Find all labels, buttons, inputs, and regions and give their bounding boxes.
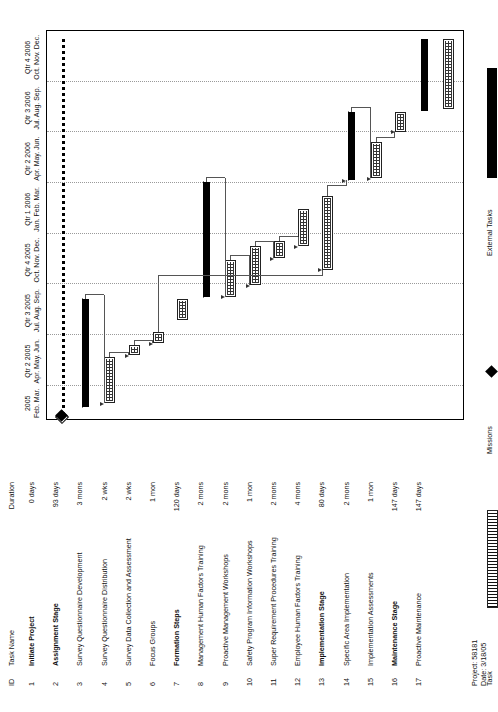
task-bar[interactable] (153, 332, 164, 344)
row-task-name: Initiate Project (28, 536, 37, 666)
legend-symbol-milestone-diamond (485, 365, 498, 378)
row-duration: 80 days (318, 482, 327, 534)
task-bar[interactable] (250, 246, 261, 285)
task-bar[interactable] (298, 209, 309, 246)
dependency-link (206, 178, 207, 182)
row-task-name: Formation Steps (173, 536, 182, 666)
row-id: 1 (28, 670, 37, 686)
legend-label: External Tasks (486, 186, 495, 256)
task-bar[interactable] (104, 357, 115, 404)
row-id: 11 (270, 670, 279, 686)
table-row[interactable]: 9Proactive Management Workshops2 mons (222, 436, 245, 686)
row-task-name: Survey Questionnaire Development (76, 536, 85, 666)
row-id: 13 (318, 670, 327, 686)
table-row[interactable]: 3Survey Questionnaire Development3 mons (76, 436, 99, 686)
dependency-arrow-icon (221, 295, 225, 299)
timeline-month-label: Jul. Aug. Sep. (33, 83, 40, 134)
table-row[interactable]: 6Focus Groups1 mon (149, 436, 172, 686)
row-duration: 3 mons (76, 482, 85, 534)
table-row[interactable]: 13Implementation Stage80 days (318, 436, 341, 686)
summary-bar[interactable] (82, 299, 89, 408)
dependency-arrow-icon (342, 179, 346, 183)
dependency-link (370, 109, 371, 179)
legend-label: Missions (486, 384, 495, 454)
footer-project: Project: 58181 (470, 640, 479, 686)
dependency-link (376, 138, 377, 142)
row-task-name: Super Requirement Procedures Training (270, 536, 279, 666)
row-id: 12 (294, 670, 303, 686)
column-header-name: Task Name (8, 536, 17, 666)
row-id: 6 (149, 670, 158, 686)
row-duration: 93 days (52, 482, 61, 534)
table-row[interactable]: 17Proactive Maintenance147 days (415, 436, 438, 686)
task-bar[interactable] (322, 196, 333, 270)
dependency-link (85, 295, 86, 299)
task-bar[interactable] (371, 142, 382, 179)
row-task-name: Implementation Assessments (367, 536, 376, 666)
task-bar[interactable] (225, 260, 236, 297)
row-task-name: Management Human Factors Training (197, 536, 206, 666)
row-duration: 4 mons (294, 482, 303, 534)
dependency-arrow-icon (367, 177, 371, 181)
table-row[interactable]: 4Survey Questionnaire Distribution2 wks (101, 436, 124, 686)
dependency-link (376, 137, 395, 138)
timeline-month-label: Feb. Mar. (33, 387, 40, 420)
table-row[interactable]: 16Maintenance Stage147 days (391, 436, 414, 686)
column-header-id: ID (8, 670, 17, 686)
summary-bar[interactable] (348, 113, 355, 181)
timeline-month-label: Jan. Feb. Mar. (33, 184, 40, 235)
row-task-name: Proactive Management Workshops (222, 536, 231, 666)
row-id: 8 (197, 670, 206, 686)
timeline-month-label: Jul. Aug. Sep. (33, 285, 40, 336)
gridline (47, 334, 463, 335)
task-bar[interactable] (443, 39, 454, 109)
task-bar[interactable] (395, 113, 406, 132)
dependency-link (249, 256, 250, 285)
task-bar[interactable] (274, 241, 285, 258)
row-task-name: Focus Groups (149, 536, 158, 666)
dependency-link (134, 341, 135, 345)
dependency-arrow-icon (294, 245, 298, 249)
table-row[interactable]: 14Specific Area Implementation2 mons (343, 436, 366, 686)
table-row[interactable]: 5Survey Data Collection and Assessment2 … (125, 436, 148, 686)
dependency-link (327, 186, 328, 196)
table-row[interactable]: 8Management Human Factors Training2 mons (197, 436, 220, 686)
dependency-link (85, 294, 104, 295)
table-row[interactable]: 10Safety Program Information Workshops1 … (246, 436, 269, 686)
dependency-link (230, 256, 231, 260)
task-bar[interactable] (129, 345, 140, 355)
row-id: 2 (52, 670, 61, 686)
table-row[interactable]: 12Employee Human Factors Training4 mons (294, 436, 317, 686)
table-row[interactable]: 11Super Requirement Procedures Training2… (270, 436, 293, 686)
gridline (47, 81, 463, 82)
task-bar[interactable] (177, 299, 188, 320)
summary-bar[interactable] (203, 182, 210, 296)
timeline-quarter-label: Qtr 4 2006 (24, 32, 31, 83)
row-id: 17 (415, 670, 424, 686)
project-summary-bar (62, 39, 65, 415)
row-task-name: Survey Data Collection and Assessment (125, 536, 134, 666)
dependency-link (327, 186, 346, 187)
gridline (47, 233, 463, 234)
table-row[interactable]: 1Initiate Project0 days (28, 436, 51, 686)
dependency-link (351, 108, 370, 109)
dependency-link (255, 242, 256, 246)
timeline-quarter-label: Qtr 2 2006 (24, 133, 31, 184)
row-id: 5 (125, 670, 134, 686)
row-duration: 1 mon (149, 482, 158, 534)
row-task-name: Specific Area Implementation (343, 536, 352, 666)
row-id: 10 (246, 670, 255, 686)
gantt-plot[interactable] (46, 30, 464, 420)
row-id: 16 (391, 670, 400, 686)
row-duration: 2 wks (101, 482, 110, 534)
table-row[interactable]: 15Implementation Assessments1 mon (367, 436, 390, 686)
table-row[interactable]: 7Formation Steps120 days (173, 436, 196, 686)
row-task-name: Assignment Stage (52, 536, 61, 666)
external-task-bar[interactable] (421, 39, 428, 111)
dependency-link (230, 255, 249, 256)
row-task-name: Proactive Maintenance (415, 536, 424, 666)
timeline-month-label: Oct. Nov. Dec. (33, 32, 40, 83)
table-row[interactable]: 2Assignment Stage93 days (52, 436, 75, 686)
row-duration: 2 mons (343, 482, 352, 534)
row-id: 9 (222, 670, 231, 686)
